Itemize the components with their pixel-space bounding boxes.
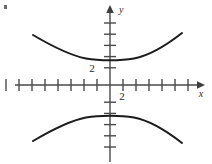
hyperbola-lower-branch	[33, 116, 182, 143]
x-axis-tick-label-2: 2	[119, 90, 125, 102]
hyperbola-graph-figure: 2 2 y x	[0, 0, 212, 164]
coordinate-plot: 2 2 y x	[0, 0, 212, 164]
corner-speck-artifact	[4, 5, 7, 9]
x-axis-name-label: x	[198, 88, 204, 99]
y-axis-name-label: y	[118, 4, 124, 15]
y-axis-arrow-icon	[106, 5, 114, 13]
y-axis-tick-label-2: 2	[89, 62, 95, 74]
